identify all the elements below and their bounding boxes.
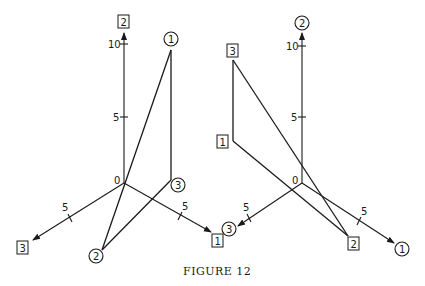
right-tick-label-5-lower-left: 5	[243, 202, 249, 213]
svg-text:3: 3	[175, 180, 181, 191]
right-edge-2-3	[233, 60, 348, 236]
svg-text:1: 1	[220, 137, 226, 148]
right-point-3: 3	[227, 44, 238, 57]
left-axis-label-3: 3	[17, 241, 28, 254]
right-tick-label-5-lower-right: 5	[361, 206, 367, 217]
left-figure: 10 5 5 5 0 2 3 1 1	[17, 15, 223, 263]
left-point-3: 3	[171, 178, 185, 192]
left-axis-label-1: 1	[212, 234, 223, 247]
svg-text:2: 2	[299, 18, 305, 29]
left-point-2: 2	[89, 249, 103, 263]
svg-text:3: 3	[226, 224, 232, 235]
left-tick-label-5-lower-left: 5	[62, 202, 68, 213]
left-origin-label: 0	[114, 175, 120, 186]
svg-text:1: 1	[215, 236, 221, 247]
svg-text:1: 1	[399, 244, 405, 255]
right-figure: 10 5 5 5 0 2 3 1 3	[217, 16, 409, 256]
left-tick-label-5-lower-right: 5	[182, 201, 188, 212]
right-axis-label-2: 2	[295, 16, 309, 30]
svg-text:3: 3	[230, 46, 236, 57]
left-edge-2-1	[102, 50, 171, 250]
svg-text:2: 2	[351, 239, 357, 250]
svg-text:2: 2	[121, 17, 127, 28]
svg-text:1: 1	[168, 34, 174, 45]
right-origin-label: 0	[292, 175, 298, 186]
right-point-2: 2	[348, 237, 359, 250]
figure-12-diagram: 10 5 5 5 0 2 3 1 1	[0, 0, 425, 286]
left-axis-lower-left	[33, 183, 124, 240]
left-tick-label-5-vertical: 5	[113, 112, 119, 123]
left-tick-label-10: 10	[108, 39, 121, 50]
right-axis-label-3: 3	[222, 222, 236, 236]
left-axis-lower-right	[124, 183, 211, 232]
right-tick-label-5-vertical: 5	[291, 112, 297, 123]
right-axis-lower-right	[302, 183, 394, 243]
svg-text:2: 2	[93, 251, 99, 262]
left-axis-label-2: 2	[118, 15, 129, 28]
right-tick-label-10: 10	[286, 41, 299, 52]
figure-caption: FIGURE 12	[183, 265, 251, 278]
right-axis-label-1: 1	[395, 242, 409, 256]
svg-text:3: 3	[20, 243, 26, 254]
right-edge-1-2	[233, 141, 348, 236]
left-point-1: 1	[164, 32, 178, 46]
right-point-1: 1	[217, 135, 228, 148]
